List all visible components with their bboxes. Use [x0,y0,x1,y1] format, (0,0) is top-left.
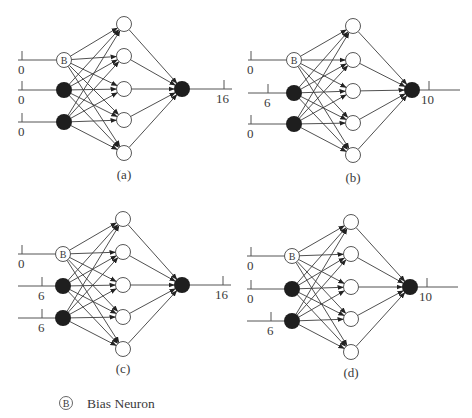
connection-edge [131,93,176,117]
legend-bias-letter: B [63,398,70,409]
legend-label: Bias Neuron [87,396,155,411]
hidden-neuron-node [116,245,131,260]
panel-b: 06010B(b) [247,19,460,186]
input-value-label: 0 [18,256,25,271]
network-diagrams-svg: 00016B(a)06010B(b)06616B(c)00610B(d) B B… [0,0,472,418]
panel-d: 00610B(d) [247,215,458,381]
hidden-neuron-node [344,280,359,295]
input-neuron-node [55,278,71,294]
connection-edge [131,60,176,86]
connection-edge [356,293,405,347]
connection-edge [360,90,404,91]
connection-edge [70,28,117,56]
output-value-label: 16 [215,287,229,302]
hidden-neuron-node [346,19,361,34]
input-neuron-node [286,116,302,132]
connection-edge [358,258,404,284]
output-value-label: 10 [419,289,432,304]
input-neuron-node [55,310,71,326]
connection-edge [300,30,346,57]
input-value-label: 6 [264,95,271,110]
input-neuron-node [284,281,300,297]
connection-edge [301,127,347,151]
panel-caption: (a) [117,167,131,182]
connection-edge [299,324,345,348]
panel-caption: (b) [345,170,360,185]
bias-letter: B [61,55,68,66]
hidden-neuron-node [344,345,359,360]
connection-edge [129,30,177,84]
hidden-neuron-node [117,49,132,64]
input-value-label: 6 [38,288,45,303]
hidden-neuron-node [116,212,131,227]
connection-edge [299,32,348,88]
connection-edge [70,317,115,318]
panels-group: 00016B(a)06010B(b)06616B(c)00610B(d) [18,17,460,381]
input-value-label: 0 [18,62,25,77]
connection-edge [68,66,120,146]
connection-edge [360,94,406,120]
hidden-neuron-node [117,82,132,97]
legend: B Bias Neuron [60,396,156,411]
hidden-neuron-node [346,84,361,99]
connection-edge [67,225,119,311]
hidden-neuron-node [346,116,361,131]
connection-edge [301,123,345,124]
output-value-label: 10 [421,92,434,107]
connection-edge [70,289,117,315]
connection-edge [71,125,118,149]
panel-caption: (c) [116,361,130,376]
connection-edge [128,225,177,280]
connection-edge [298,32,349,117]
hidden-neuron-node [346,53,361,68]
hidden-neuron-node [117,146,132,161]
connection-edge [358,96,407,150]
bias-letter: B [291,55,298,66]
hidden-neuron-node [116,278,131,293]
input-neuron-node [286,85,302,101]
panel-caption: (d) [343,365,358,380]
hidden-neuron-node [117,17,132,32]
connection-edge [129,95,177,148]
hidden-neuron-node [117,113,132,128]
input-value-label: 6 [267,323,274,338]
output-value-label: 16 [216,91,230,106]
connection-edge [358,32,407,85]
input-neuron-node [56,114,72,130]
panel-a: 00016B(a) [18,17,232,183]
input-value-label: 0 [18,124,25,139]
neural-network-figure: 00016B(a)06010B(b)06616B(c)00610B(d) B B… [0,0,472,418]
output-neuron-node [174,81,190,97]
connection-edge [358,291,404,316]
connection-edge [70,321,117,345]
connection-edge [298,291,344,318]
connection-edge [69,223,116,250]
input-value-label: 0 [247,126,254,141]
connection-edge [130,256,176,282]
connection-edge [296,228,347,314]
input-neuron-node [284,313,300,329]
output-neuron-node [404,82,420,98]
input-value-label: 6 [38,320,45,335]
input-value-label: 0 [247,258,254,273]
output-neuron-node [174,277,190,293]
input-value-label: 0 [247,291,254,306]
hidden-neuron-node [346,148,361,163]
hidden-neuron-node [344,247,359,262]
connection-edge [128,291,177,344]
output-neuron-node [402,279,418,295]
bias-letter: B [60,249,67,260]
connection-edge [298,226,344,253]
connection-edge [356,228,405,282]
panel-c: 06616B(c) [18,212,231,377]
hidden-neuron-node [116,310,131,325]
connection-edge [130,289,176,314]
connection-edge [68,30,120,115]
input-value-label: 0 [18,92,25,107]
hidden-neuron-node [116,342,131,357]
input-neuron-node [56,82,72,98]
input-value-label: 0 [247,62,254,77]
bias-letter: B [289,251,296,262]
hidden-neuron-node [344,215,359,230]
hidden-neuron-node [344,312,359,327]
